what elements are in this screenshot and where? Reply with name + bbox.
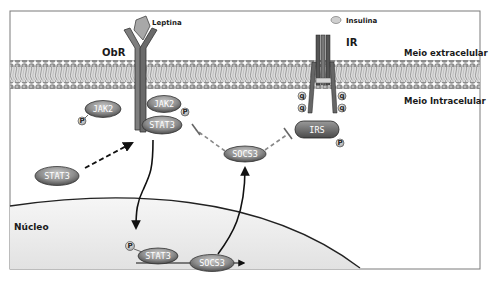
cell-membrane (10, 60, 480, 89)
svg-text:q: q (299, 92, 304, 100)
svg-text:STAT3: STAT3 (145, 251, 171, 261)
svg-text:STAT3: STAT3 (44, 171, 70, 181)
label-leptin: Leptina (152, 19, 182, 27)
irs: IRS (295, 121, 339, 138)
label-nucleus: Núcleo (14, 222, 49, 232)
label-intracellular: Meio Intracelular (404, 96, 487, 106)
svg-text:JAK2: JAK2 (154, 99, 174, 109)
phospho-jak2-right: P (181, 108, 189, 116)
svg-text:STAT3: STAT3 (149, 120, 175, 130)
label-ir: IR (346, 37, 358, 48)
stat3-cytosol: STAT3 (35, 167, 79, 186)
svg-text:P: P (79, 117, 84, 125)
svg-text:q: q (299, 104, 304, 112)
svg-text:P: P (337, 139, 342, 147)
svg-text:JAK2: JAK2 (93, 104, 113, 114)
label-insulin: Insulina (346, 17, 378, 25)
stat3-nuclear: STAT3 (138, 248, 178, 264)
svg-text:SOCS3: SOCS3 (232, 149, 258, 159)
phospho-irs: P (336, 139, 344, 147)
label-extracellular: Meio extracelular (404, 48, 489, 58)
svg-text:P: P (127, 242, 132, 250)
svg-text:IRS: IRS (309, 125, 324, 135)
svg-text:q: q (339, 104, 344, 112)
label-obr: ObR (102, 47, 126, 58)
socs3-cytosol: SOCS3 (224, 146, 266, 162)
jak2-left: JAK2 (85, 101, 121, 118)
socs3-gene: SOCS3 (190, 255, 234, 272)
jak2-right: JAK2 (147, 96, 181, 113)
insulin-ligand (331, 17, 341, 24)
svg-text:P: P (182, 108, 187, 116)
leptin-insulin-signaling-diagram: Leptina ObR Insulina IR q q q q Meio ext… (0, 0, 490, 281)
stat3-receptor: STAT3 (142, 116, 182, 134)
svg-text:SOCS3: SOCS3 (199, 258, 225, 268)
svg-text:q: q (339, 92, 344, 100)
